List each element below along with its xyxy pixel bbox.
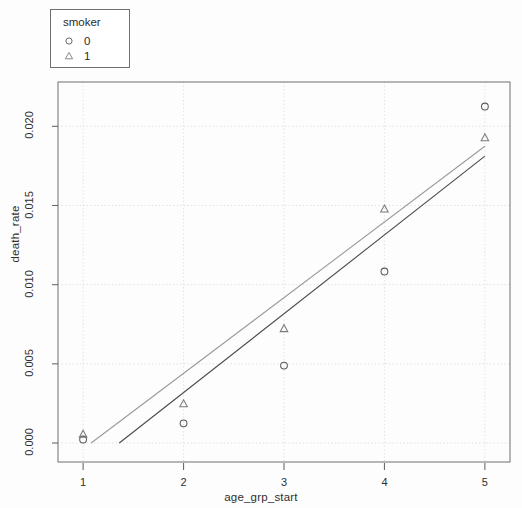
legend-title: smoker (63, 16, 101, 28)
x-axis-title: age_grp_start (0, 491, 522, 503)
x-tick-label: 1 (80, 476, 86, 488)
x-tick-label: 4 (381, 476, 387, 488)
x-tick-label: 5 (482, 476, 488, 488)
legend-entry-0: 0 (63, 35, 90, 47)
legend-label-1: 1 (84, 50, 90, 62)
legend-entry-1: 1 (63, 50, 90, 62)
legend: smoker 0 1 (50, 9, 130, 68)
axis-ticks (52, 126, 485, 470)
triangle-marker-icon (63, 50, 75, 62)
x-tick-label: 3 (281, 476, 287, 488)
y-tick-label: 0.000 (23, 419, 35, 465)
y-axis-title: death_rate (9, 174, 21, 294)
y-tick-label: 0.005 (23, 340, 35, 386)
chart-canvas (0, 0, 522, 508)
circle-marker-icon (63, 35, 75, 47)
gridlines (58, 82, 510, 462)
scatter-plot-figure: smoker 0 1 age_grp_start death_rate 1234… (0, 0, 522, 508)
x-tick-label: 2 (180, 476, 186, 488)
y-tick-label: 0.020 (23, 102, 35, 148)
regression-lines (91, 146, 485, 443)
y-tick-label: 0.010 (23, 261, 35, 307)
legend-label-0: 0 (84, 35, 90, 47)
y-tick-label: 0.015 (23, 182, 35, 228)
plot-frame (58, 82, 510, 462)
